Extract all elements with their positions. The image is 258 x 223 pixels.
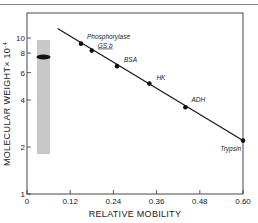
y-axis-ticks: 1246810 [16,34,31,199]
y-axis-title-exponent: -4 [2,42,8,48]
data-point-label: GS b [98,42,113,49]
gel-band [37,55,51,60]
y-axis-title: MOLECULAR WEIGHT× 10-4 [2,42,12,167]
data-point [115,64,120,69]
data-point [147,81,152,86]
y-tick-label: 2 [21,143,26,152]
data-point-label: Phosphorylase [87,33,130,41]
data-point-label: ADH [190,96,205,103]
y-tick-label: 8 [21,49,26,58]
y-axis-title-main: MOLECULAR WEIGHT× 10 [2,48,12,166]
data-point-label: HK [156,74,166,81]
x-axis-title: RELATIVE MOBILITY [89,209,181,219]
data-point-label: Trypsin [220,145,241,153]
data-point [183,105,188,110]
y-tick-label: 6 [21,69,26,78]
data-point-label: BSA [124,56,137,63]
y-tick-label: 10 [16,34,25,43]
y-tick-label: 4 [21,96,26,105]
x-tick-label: 0.12 [62,197,78,206]
x-tick-label: 0.24 [106,197,122,206]
x-tick-label: 0.48 [192,197,208,206]
data-points: PhosphorylaseGS bBSAHKADHTrypsin [79,33,246,153]
plot-frame [27,13,243,194]
x-axis-ticks: 00.120.240.360.480.60 [25,190,252,206]
data-point [241,138,246,143]
svg-text:MOLECULAR WEIGHT× 10-4: MOLECULAR WEIGHT× 10-4 [2,42,12,167]
chart: 1246810 00.120.240.360.480.60 Phosphoryl… [0,0,258,223]
x-tick-label: 0 [25,197,30,206]
x-tick-label: 0.60 [235,197,251,206]
data-point [90,48,95,53]
x-tick-label: 0.36 [149,197,165,206]
data-point [79,41,84,46]
